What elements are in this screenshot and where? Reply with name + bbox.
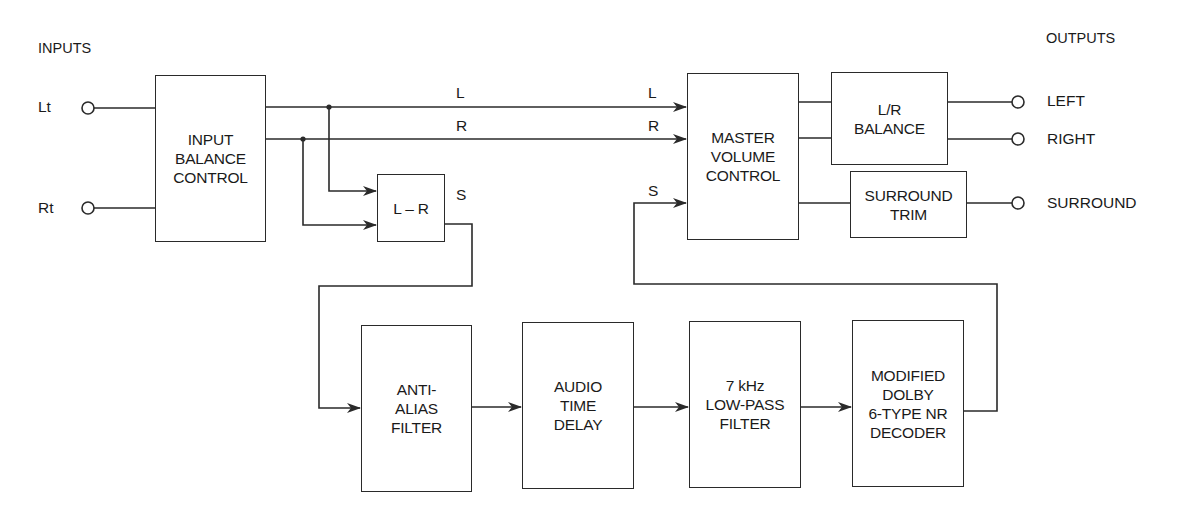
signal-label-l-end: L <box>648 84 657 102</box>
inputs-header: INPUTS <box>38 40 91 56</box>
signal-label-r-mid: R <box>456 117 467 135</box>
block-label: MASTER VOLUME CONTROL <box>706 128 780 185</box>
output-terminal-surround <box>1012 197 1024 209</box>
outputs-header: OUTPUTS <box>1046 30 1115 46</box>
output-terminal-left <box>1012 96 1024 108</box>
l-minus-r-block: L – R <box>377 174 445 242</box>
input-terminal-rt <box>82 202 94 214</box>
input-terminal-lt <box>82 102 94 114</box>
lr-balance-block: L/R BALANCE <box>831 72 948 165</box>
block-label: 7 kHz LOW-PASS FILTER <box>706 376 785 433</box>
block-label: L/R BALANCE <box>854 100 925 138</box>
block-label: ANTI- ALIAS FILTER <box>391 380 442 437</box>
input-label-lt: Lt <box>38 98 51 116</box>
signal-label-r-end: R <box>648 117 659 135</box>
low-pass-filter-block: 7 kHz LOW-PASS FILTER <box>689 321 801 488</box>
master-volume-control-block: MASTER VOLUME CONTROL <box>687 73 799 240</box>
output-label-surround: SURROUND <box>1047 194 1137 212</box>
input-balance-control-block: INPUT BALANCE CONTROL <box>155 75 266 242</box>
signal-label-s-in: S <box>648 182 658 200</box>
signal-label-l-mid: L <box>456 84 465 102</box>
block-label: L – R <box>393 199 428 218</box>
block-label: MODIFIED DOLBY 6-TYPE NR DECODER <box>868 366 947 442</box>
block-label: SURROUND TRIM <box>865 186 953 224</box>
block-label: AUDIO TIME DELAY <box>554 377 603 434</box>
anti-alias-filter-block: ANTI- ALIAS FILTER <box>361 325 472 492</box>
output-terminal-right <box>1012 133 1024 145</box>
output-label-left: LEFT <box>1047 92 1085 110</box>
input-label-rt: Rt <box>38 199 54 217</box>
output-label-right: RIGHT <box>1047 130 1095 148</box>
surround-trim-block: SURROUND TRIM <box>850 171 967 238</box>
signal-label-s-out: S <box>456 186 466 204</box>
audio-time-delay-block: AUDIO TIME DELAY <box>522 322 634 489</box>
block-label: INPUT BALANCE CONTROL <box>173 130 247 187</box>
nr-decoder-block: MODIFIED DOLBY 6-TYPE NR DECODER <box>852 320 964 487</box>
